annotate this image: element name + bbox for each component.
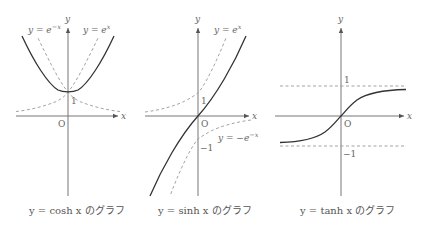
exp-curve: [145, 38, 226, 112]
x-axis-label: x: [252, 111, 257, 121]
exp-neg-label: y = e−x: [27, 23, 61, 35]
caption-sinh: y = sinh x のグラフ: [157, 204, 252, 216]
exp-label: y = ex: [213, 23, 242, 35]
sinh-graph-panel: x y O 1 −1 y = ex y = −e−x: [145, 14, 259, 196]
y-axis-label: y: [64, 14, 71, 24]
tick-one-label: 1: [344, 75, 350, 85]
tick-one-label: 1: [71, 96, 77, 106]
origin-label: O: [201, 119, 208, 129]
y-axis-label: y: [194, 14, 201, 24]
origin-label: O: [58, 119, 65, 129]
tick-one-label: 1: [201, 96, 207, 106]
caption-cosh: y = cosh x のグラフ: [28, 204, 125, 216]
tick-minus-one-label: −1: [343, 149, 356, 159]
x-axis-label: x: [121, 111, 126, 121]
tanh-graph-panel: x y O 1 −1: [275, 14, 412, 196]
cosh-graph-panel: x y O 1 y = e−x y = ex: [16, 14, 126, 196]
origin-label: O: [344, 119, 351, 129]
neg-exp-neg-curve: [170, 120, 251, 196]
caption-tanh: y = tanh x のグラフ: [299, 204, 395, 216]
tick-minus-one-label: −1: [200, 143, 213, 153]
x-axis-label: x: [407, 111, 412, 121]
exp-label: y = ex: [82, 23, 111, 35]
hyperbolic-graphs-figure: x y O 1 y = e−x y = ex x y O 1 −1 y = ex…: [0, 0, 432, 230]
y-axis-label: y: [337, 14, 344, 24]
neg-exp-neg-label: y = −e−x: [217, 131, 259, 143]
